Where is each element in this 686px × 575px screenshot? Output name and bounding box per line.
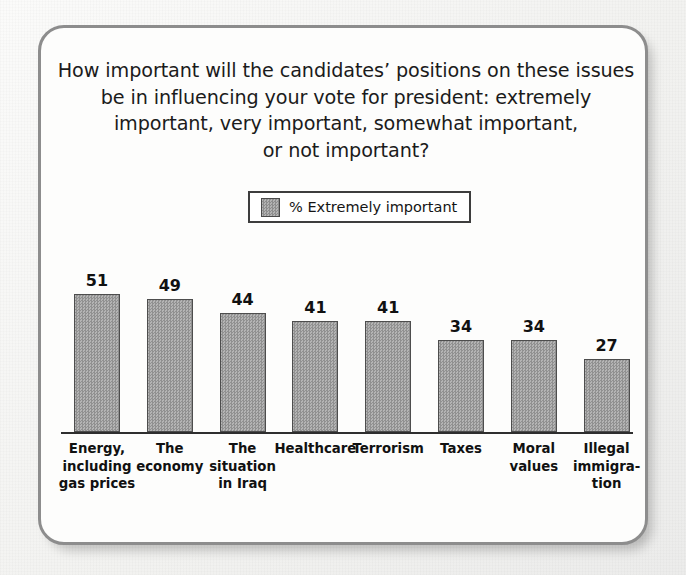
bar-category-label-line: Taxes xyxy=(420,440,502,458)
bar-value-label: 41 xyxy=(279,298,351,317)
bar-rect[interactable] xyxy=(292,321,338,432)
bar-rect[interactable] xyxy=(147,299,193,432)
bar-rect[interactable] xyxy=(365,321,411,432)
bar-category-label-line: The xyxy=(202,440,284,458)
bar-category-label-line: including xyxy=(56,458,138,476)
bar-rect[interactable] xyxy=(220,313,266,432)
bar-category-label-line: Energy, xyxy=(56,440,138,458)
bar-category-label-line: immigra- xyxy=(566,458,648,476)
bar-group: 49Theeconomy xyxy=(134,28,206,542)
bar-value-label: 49 xyxy=(134,276,206,295)
bar-value-label: 34 xyxy=(425,317,497,336)
bar-category-label-line: tion xyxy=(566,475,648,493)
bar-category-label: Illegalimmigra-tion xyxy=(566,440,648,493)
bar-value-label: 41 xyxy=(352,298,424,317)
bar-category-label-line: Healthcare xyxy=(274,440,356,458)
bar-category-label: Thesituationin Iraq xyxy=(202,440,284,493)
bar-category-label-line: in Iraq xyxy=(202,475,284,493)
bar-group: 27Illegalimmigra-tion xyxy=(571,28,643,542)
bar-rect[interactable] xyxy=(74,294,120,432)
bar-rect[interactable] xyxy=(438,340,484,432)
bar-group: 34Moralvalues xyxy=(498,28,570,542)
bar-value-label: 44 xyxy=(207,290,279,309)
bar-value-label: 27 xyxy=(571,336,643,355)
bar-category-label-line: The xyxy=(129,440,211,458)
bar-rect[interactable] xyxy=(511,340,557,432)
chart-figure-frame: How important will the candidates’ posit… xyxy=(38,25,648,545)
bar-category-label: Terrorism xyxy=(347,440,429,458)
bar-category-label-line: values xyxy=(493,458,575,476)
bar-category-label-line: economy xyxy=(129,458,211,476)
bar-category-label: Healthcare xyxy=(274,440,356,458)
bar-group: 34Taxes xyxy=(425,28,497,542)
bar-category-label-line: Illegal xyxy=(566,440,648,458)
bar-category-label-line: Terrorism xyxy=(347,440,429,458)
bar-chart-plot-area: 51Energy,includinggas prices49Theeconomy… xyxy=(41,28,645,542)
bar-category-label: Theeconomy xyxy=(129,440,211,475)
bar-group: 44Thesituationin Iraq xyxy=(207,28,279,542)
bar-value-label: 34 xyxy=(498,317,570,336)
bar-category-label-line: Moral xyxy=(493,440,575,458)
bar-category-label: Moralvalues xyxy=(493,440,575,475)
bar-value-label: 51 xyxy=(61,271,133,290)
bar-category-label: Taxes xyxy=(420,440,502,458)
bar-category-label-line: situation xyxy=(202,458,284,476)
bar-group: 41Healthcare xyxy=(279,28,351,542)
bar-group: 41Terrorism xyxy=(352,28,424,542)
bar-category-label: Energy,includinggas prices xyxy=(56,440,138,493)
bar-rect[interactable] xyxy=(584,359,630,432)
bar-category-label-line: gas prices xyxy=(56,475,138,493)
bar-group: 51Energy,includinggas prices xyxy=(61,28,133,542)
